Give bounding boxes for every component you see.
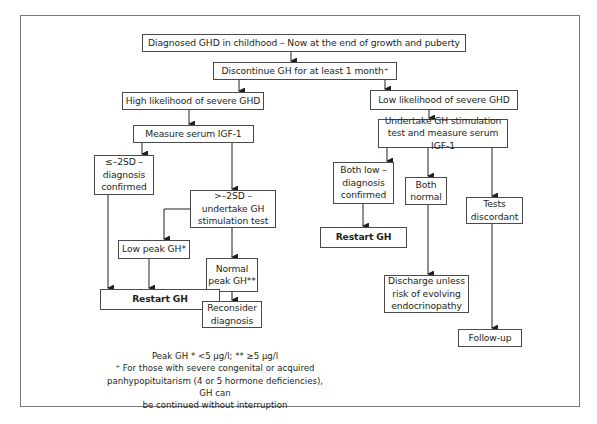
node-discharge: Discharge unless risk of evolving endocr…	[384, 275, 469, 313]
footnote: Peak GH * <5 μg/l; ** ≥5 μg/l ⁺ For thos…	[100, 350, 330, 411]
node-both-normal: Both normal	[405, 177, 447, 205]
node-gt-2sd: >–2SD – undertake GH stimulation test	[190, 190, 276, 228]
node-restart-gh-right: Restart GH	[320, 227, 407, 248]
node-both-low: Both low – diagnosis confirmed	[333, 162, 394, 204]
node-discontinue: Discontinue GH for at least 1 month⁺	[213, 62, 397, 80]
node-undertake-stim: Undertake GH stimulation test and measur…	[378, 119, 508, 148]
node-follow-up: Follow-up	[458, 329, 522, 347]
node-low-likelihood: Low likelihood of severe GHD	[370, 90, 518, 110]
node-low-peak-gh: Low peak GH*	[118, 240, 190, 259]
node-tests-discordant: Tests discordant	[466, 197, 523, 224]
node-start: Diagnosed GHD in childhood – Now at the …	[142, 34, 466, 52]
node-reconsider-diagnosis: Reconsider diagnosis	[202, 301, 262, 328]
node-measure-igf1: Measure serum IGF-1	[133, 125, 254, 143]
node-normal-peak-gh: Normal peak GH**	[206, 258, 258, 292]
node-le-2sd: ≤–2SD – diagnosis confirmed	[94, 155, 154, 195]
node-high-likelihood: High likelihood of severe GHD	[122, 92, 264, 110]
